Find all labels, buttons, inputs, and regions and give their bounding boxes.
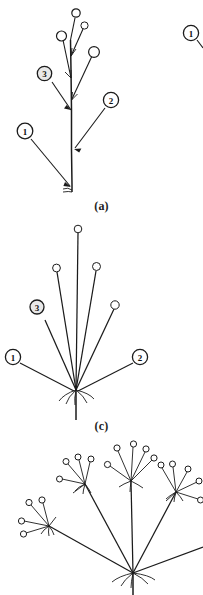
umbel-ray-2 (57, 272, 76, 390)
flower-bud-2 (81, 22, 88, 29)
umbel-ray-3 (76, 271, 96, 390)
compound-bract-4 (133, 573, 155, 580)
umbel-flower-2 (53, 264, 61, 272)
umbellet-2 (57, 454, 95, 494)
umbel-ray-5 (45, 320, 76, 390)
callout-label-1: 1 (23, 127, 28, 137)
umbel-bract-4 (76, 390, 94, 399)
umbellet-4 (158, 461, 203, 503)
compound-bract-1 (112, 573, 133, 582)
callout-label-3: 3 (42, 69, 47, 79)
leader-line-3 (52, 82, 71, 110)
umbellet-1 (18, 497, 56, 537)
raceme-pedicel-4 (72, 56, 93, 100)
umbel-callout-label-3: 3 (35, 303, 40, 313)
panel-raceme: 3 2 1 1 (0, 0, 203, 215)
umbel-callout-label-2: 2 (138, 353, 143, 363)
figure-sheet: 3 2 1 1 (a) (0, 0, 203, 595)
leader-line-2 (75, 108, 105, 148)
compound-primary-ray-5 (133, 547, 203, 573)
flower-bud-1 (72, 9, 80, 17)
umbellet-3 (104, 441, 157, 492)
panel-umbel: 3 1 2 (0, 215, 203, 435)
edge-callout-label: 1 (189, 29, 194, 39)
raceme-basal-bract-2 (63, 192, 72, 193)
raceme-pedicel-1 (71, 18, 76, 40)
leader-arrow-2 (74, 148, 81, 152)
callout-label-2: 2 (109, 96, 114, 106)
raceme-basal-bract (63, 188, 72, 190)
caption-panel-c: (c) (0, 419, 203, 434)
edge-leader-line (197, 40, 203, 48)
caption-panel-a: (a) (0, 199, 203, 214)
leader-line-1 (31, 139, 70, 186)
umbel-ray-4 (76, 309, 114, 390)
panel-compound-umbel (0, 435, 203, 595)
compound-primary-ray-3 (131, 481, 133, 573)
flower-bud-4 (89, 47, 100, 58)
raceme-pedicel-3 (63, 40, 71, 78)
umbel-flower-1 (74, 225, 82, 233)
raceme-main-stem (71, 40, 73, 192)
umbel-callout-label-1: 1 (11, 353, 16, 363)
umbel-flower-4 (111, 301, 119, 309)
umbel-flower-3 (93, 263, 101, 271)
raceme-pedicel-2 (71, 29, 83, 56)
flower-bud-3 (57, 31, 67, 41)
umbel-ray-1 (76, 233, 78, 390)
compound-primary-ray-4 (133, 492, 176, 573)
